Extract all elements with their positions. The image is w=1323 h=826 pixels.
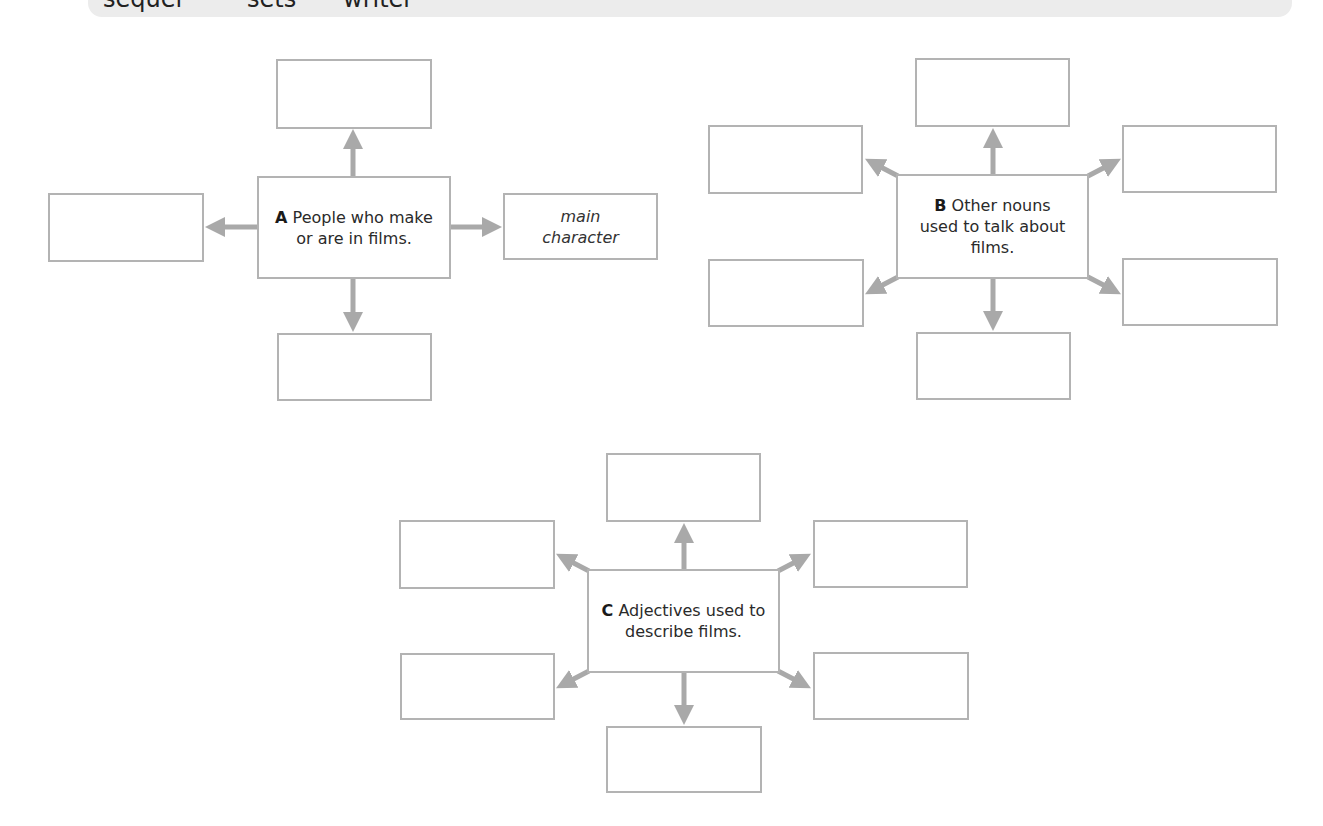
diagram-a-box-left[interactable] [48, 193, 204, 262]
diagram-c-box-top[interactable] [606, 453, 761, 522]
arrow-icon [778, 558, 803, 571]
diagram-c-box-bottom[interactable] [606, 726, 762, 793]
arrow-icon [1088, 277, 1113, 290]
diagram-c-box-top-right[interactable] [813, 520, 968, 588]
diagram-b-box-top-left[interactable] [708, 125, 863, 194]
diagram-c-box-bottom-left[interactable] [400, 653, 555, 720]
arrow-icon [873, 163, 898, 176]
diagram-b-box-bottom-right[interactable] [1122, 258, 1278, 326]
diagram-title-text: People who make or are in films. [293, 208, 433, 248]
word-bank-word: writer [343, 0, 413, 11]
diagram-b-box-top-right[interactable] [1122, 125, 1277, 193]
diagram-b-center: B Other nouns used to talk about films. [896, 174, 1089, 279]
arrows-layer [0, 0, 1323, 826]
diagram-b-box-top[interactable] [915, 58, 1070, 127]
arrow-icon [1088, 163, 1113, 176]
word-bank-word: sequel [103, 0, 182, 11]
arrow-icon [564, 671, 589, 684]
diagram-a-box-right[interactable]: main character [503, 193, 658, 260]
diagram-a-title: A People who make or are in films. [267, 207, 441, 249]
arrow-icon [564, 558, 589, 571]
diagram-title-text: Adjectives used to describe films. [618, 601, 765, 641]
diagram-a-box-top[interactable] [276, 59, 432, 129]
diagram-a-box-bottom[interactable] [277, 333, 432, 401]
diagram-b-box-bottom-left[interactable] [708, 259, 864, 327]
arrow-icon [778, 671, 803, 684]
word-bank-word: sets [247, 0, 296, 11]
diagram-c-box-top-left[interactable] [399, 520, 555, 589]
diagram-letter: A [275, 208, 287, 227]
diagram-b-title: B Other nouns used to talk about films. [918, 195, 1068, 258]
diagram-letter: C [602, 601, 614, 620]
answer-text-main-character: main character [521, 206, 641, 248]
diagram-c-center: C Adjectives used to describe films. [587, 569, 780, 673]
diagram-a-center: A People who make or are in films. [257, 176, 451, 279]
diagram-letter: B [934, 196, 946, 215]
diagram-c-title: C Adjectives used to describe films. [597, 600, 770, 642]
arrow-icon [873, 277, 898, 290]
diagram-b-box-bottom[interactable] [916, 332, 1071, 400]
diagram-c-box-bottom-right[interactable] [813, 652, 969, 720]
